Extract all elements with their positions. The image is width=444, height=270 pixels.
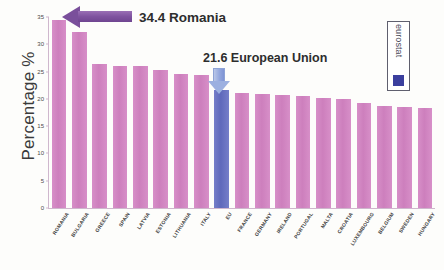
x-tick-label: IRELAND <box>275 211 293 234</box>
y-axis-title: Percentage % <box>19 21 39 191</box>
x-tick-label: BULGARIA <box>70 211 90 238</box>
bar-croatia <box>336 99 351 208</box>
y-tick-mark <box>46 17 49 18</box>
x-tick-label: SPAIN <box>117 211 131 228</box>
bar-france <box>235 93 250 208</box>
x-tick-label: MALTA <box>319 211 334 229</box>
european-union-annotation-label: 21.6 European Union <box>203 51 363 65</box>
y-tick-mark <box>46 208 49 209</box>
x-tick-label: HUNGARY <box>416 211 436 237</box>
bar-chart: Percentage % 05101520253035 ROMANIABULGA… <box>0 0 444 270</box>
bar-germany <box>255 94 270 208</box>
x-tick-label: CROATIA <box>336 211 354 235</box>
romania-annotation: 34.4 Romania <box>62 6 226 28</box>
x-tick-label: ITALY <box>199 211 212 227</box>
x-tick-label: FRANCE <box>236 211 253 233</box>
bar-bulgaria <box>72 32 87 208</box>
bar-belgium <box>377 106 392 208</box>
european-union-annotation: 21.6 European Union <box>203 51 363 65</box>
bar-romania <box>52 20 67 208</box>
x-axis-line <box>48 208 435 209</box>
y-tick-mark <box>46 153 49 154</box>
x-tick-label: LATVIA <box>136 211 151 230</box>
y-tick-label: 0 <box>41 205 44 211</box>
bar-lithuania <box>174 74 189 208</box>
plot-area: 05101520253035 ROMANIABULGARIAGREECESPAI… <box>49 17 435 208</box>
x-tick-label: GREECE <box>93 211 110 233</box>
x-tick-label: GERMANY <box>253 211 273 237</box>
y-tick-label: 10 <box>37 150 44 156</box>
eurostat-logo: eurostat <box>387 21 410 91</box>
y-tick-label: 20 <box>37 96 44 102</box>
y-tick-label: 25 <box>37 69 44 75</box>
eurostat-logo-square-icon <box>393 75 404 86</box>
x-tick-label: SWEDEN <box>398 211 416 234</box>
bar-eu <box>214 90 229 208</box>
x-tick-label: PORTUGAL <box>292 211 313 239</box>
eurostat-logo-text: eurostat <box>388 24 409 80</box>
bar-hungary <box>418 108 433 208</box>
down-arrow-icon <box>208 68 230 94</box>
y-tick-label: 30 <box>37 41 44 47</box>
x-tick-label: ROMANIA <box>51 211 70 236</box>
bar-spain <box>113 66 128 208</box>
x-tick-label: EU <box>223 211 232 221</box>
x-tick-label: ESTONIA <box>154 211 172 234</box>
y-tick-mark <box>46 180 49 181</box>
y-tick-mark <box>46 126 49 127</box>
bar-italy <box>194 75 209 208</box>
y-tick-mark <box>46 71 49 72</box>
left-arrow-icon <box>62 6 132 28</box>
y-tick-mark <box>46 44 49 45</box>
y-tick-label: 5 <box>41 178 44 184</box>
bar-greece <box>92 64 107 208</box>
x-tick-label: BELGIUM <box>377 211 396 235</box>
bar-portugal <box>296 96 311 208</box>
y-tick-label: 15 <box>37 123 44 129</box>
bar-luxembourg <box>357 103 372 208</box>
x-tick-label: LITHUANIA <box>171 211 192 239</box>
bar-estonia <box>153 70 168 208</box>
bar-ireland <box>275 95 290 208</box>
bar-latvia <box>133 66 148 208</box>
bar-malta <box>316 98 331 208</box>
y-tick-mark <box>46 98 49 99</box>
romania-annotation-label: 34.4 Romania <box>139 10 226 25</box>
y-tick-label: 35 <box>37 14 44 20</box>
bar-sweden <box>397 107 412 209</box>
